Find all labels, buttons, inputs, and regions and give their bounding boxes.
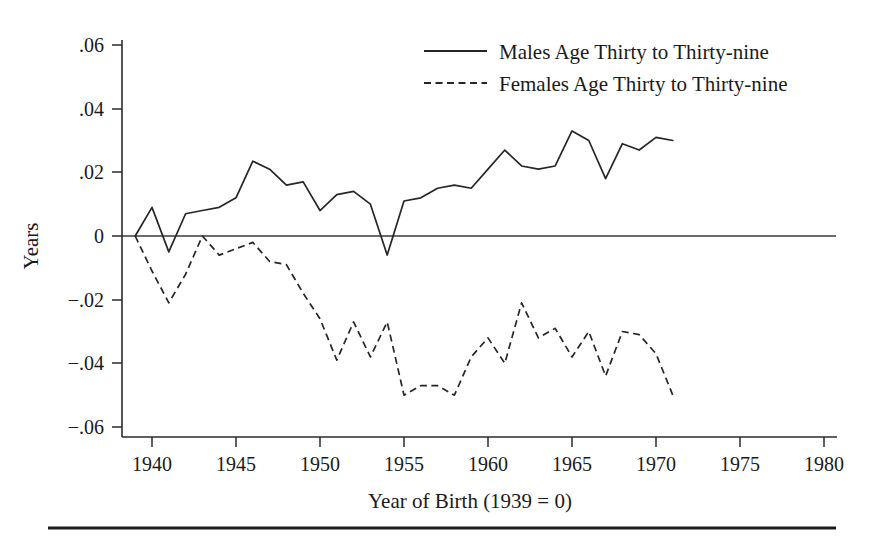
axis-spines: [122, 40, 837, 437]
y-tick-label-3: 0: [94, 225, 104, 247]
x-tick-label-8: 1980: [804, 453, 844, 475]
x-axis-ticks: [152, 437, 824, 447]
x-tick-label-7: 1975: [720, 453, 760, 475]
y-tick-label-1: .04: [79, 98, 104, 120]
x-axis-title: Year of Birth (1939 = 0): [368, 489, 572, 513]
x-tick-label-4: 1960: [468, 453, 508, 475]
series-line-females: [135, 236, 673, 395]
x-tick-label-6: 1970: [636, 453, 676, 475]
x-tick-label-5: 1965: [552, 453, 592, 475]
y-tick-label-6: −.06: [68, 416, 104, 438]
y-axis-tick-labels: .06 .04 .02 0 −.02 −.04 −.06: [68, 34, 104, 438]
x-tick-label-0: 1940: [132, 453, 172, 475]
y-tick-label-0: .06: [79, 34, 104, 56]
chart-svg: .06 .04 .02 0 −.02 −.04 −.06 Years 1940 …: [0, 0, 877, 545]
y-axis-ticks: [112, 45, 122, 427]
x-axis-tick-labels: 1940 1945 1950 1955 1960 1965 1970 1975 …: [132, 453, 844, 475]
legend: Males Age Thirty to Thirty-nine Females …: [424, 40, 788, 96]
legend-label-females: Females Age Thirty to Thirty-nine: [499, 72, 788, 96]
y-tick-label-5: −.04: [68, 352, 104, 374]
legend-label-males: Males Age Thirty to Thirty-nine: [499, 40, 769, 64]
y-axis-title: Years: [19, 223, 43, 270]
y-tick-label-2: .02: [79, 161, 104, 183]
x-tick-label-2: 1950: [300, 453, 340, 475]
figure-container: .06 .04 .02 0 −.02 −.04 −.06 Years 1940 …: [0, 0, 877, 545]
x-tick-label-3: 1955: [384, 453, 424, 475]
y-tick-label-4: −.02: [68, 289, 104, 311]
x-tick-label-1: 1945: [216, 453, 256, 475]
